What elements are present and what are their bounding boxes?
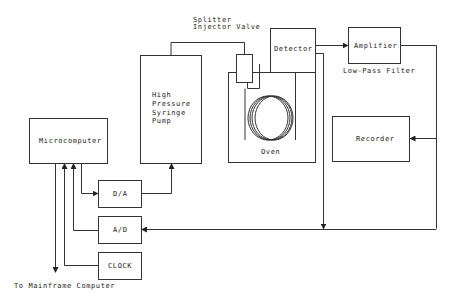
pump-valve-line [171,43,245,56]
pump-label-3: Syringe [152,109,186,117]
valve-label-2: Injector Valve [193,23,260,31]
micro-da-arrow [82,164,98,194]
oven-label: Oven [261,148,280,156]
amplifier-label: Amplifier [354,42,397,50]
da-label: D/A [113,190,127,198]
detector-label: Detector [274,45,313,53]
detector-bus-line [316,54,324,229]
ad-label: A/D [113,226,127,234]
filter-label: Low-Pass Filter [343,67,415,75]
da-pump-arrow [142,164,172,194]
valve-box [237,55,253,83]
ad-micro-arrow [74,164,99,231]
pump-label-1: High [152,91,171,99]
column-coil [248,96,293,140]
clock-label: CLOCK [108,262,132,270]
mainframe-label: To Mainframe Computer [14,282,115,290]
recorder-label: Recorder [356,135,395,143]
pump-label-4: Pump [152,117,171,125]
microcomputer-label: Microcomputer [39,137,102,145]
pump-label-2: Pressure [152,100,191,108]
